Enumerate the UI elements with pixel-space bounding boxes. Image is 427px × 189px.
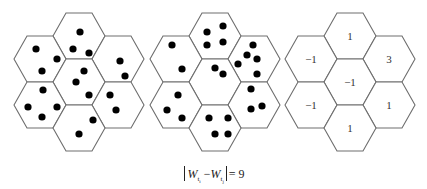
cell-value-upper-right: 3 — [386, 53, 392, 65]
point-dot — [80, 67, 87, 74]
point-dot — [211, 64, 218, 71]
formula-var-left: W — [187, 167, 197, 181]
point-dot — [219, 38, 226, 45]
difference-formula: Wti −Wtj= 9 — [0, 166, 427, 185]
formula-var-right: W — [211, 167, 221, 181]
formula-subsub-right: j — [222, 180, 223, 185]
point-dot — [32, 45, 39, 52]
point-dot — [224, 114, 231, 121]
point-dot — [253, 55, 260, 62]
cell-value-upper-left: −1 — [305, 53, 317, 65]
point-dot — [69, 45, 76, 52]
point-dot — [38, 113, 45, 120]
point-dot — [53, 55, 60, 62]
point-dot — [85, 91, 92, 98]
abs-bar-right — [226, 166, 227, 181]
panel-3-difference-values: 1−13−1−111 — [285, 13, 415, 151]
cell-value-lower-right: 1 — [386, 99, 392, 111]
point-dot — [224, 130, 231, 137]
cell-value-lower-left: −1 — [305, 99, 317, 111]
panel-2-dot-distribution — [150, 13, 280, 151]
point-dot — [205, 114, 212, 121]
point-dot — [163, 106, 170, 113]
point-dot — [211, 130, 218, 137]
point-dot — [106, 91, 113, 98]
formula-minus: − — [204, 167, 211, 181]
formula-subsub-left: i — [199, 180, 200, 185]
panel-1-dot-distribution — [14, 13, 144, 151]
abs-bar-left — [184, 166, 185, 181]
point-dot — [249, 41, 256, 48]
point-dot — [247, 85, 254, 92]
point-dot — [174, 91, 181, 98]
formula-equals: = 9 — [229, 167, 245, 181]
point-dot — [178, 114, 185, 121]
point-dot — [85, 49, 92, 56]
point-dot — [112, 106, 119, 113]
point-dot — [89, 116, 96, 123]
point-dot — [203, 28, 210, 35]
point-dot — [253, 70, 260, 77]
point-dot — [219, 70, 226, 77]
point-dot — [116, 57, 123, 64]
cell-value-center: −1 — [344, 76, 356, 88]
point-dot — [203, 41, 210, 48]
point-dot — [39, 86, 46, 93]
point-dot — [38, 67, 45, 74]
point-dot — [72, 78, 79, 85]
point-dot — [219, 22, 226, 29]
point-dot — [121, 72, 128, 79]
point-dot — [258, 102, 265, 109]
point-dot — [76, 28, 83, 35]
cell-value-top: 1 — [347, 30, 353, 42]
hexagon-diagram: 1−13−1−111 — [0, 0, 427, 189]
cell-value-bottom: 1 — [347, 122, 353, 134]
point-dot — [247, 105, 254, 112]
point-dot — [234, 60, 241, 67]
point-dot — [168, 41, 175, 48]
point-dot — [53, 103, 60, 110]
point-dot — [178, 65, 185, 72]
point-dot — [243, 51, 250, 58]
point-dot — [24, 103, 31, 110]
point-dot — [75, 130, 82, 137]
